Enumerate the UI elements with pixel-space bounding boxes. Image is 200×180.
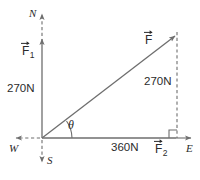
vector-arrow-icon — [21, 40, 30, 45]
vector-diagram-figure: N S W E F 1 270N F 270N 360N — [0, 0, 200, 180]
resultant-vector-label: F — [145, 34, 152, 46]
f2-symbol-wrap: F — [155, 143, 162, 155]
compass-label-north: N — [29, 8, 36, 19]
f1-vector-label: F 1 — [22, 45, 35, 60]
vector-arrow-icon — [144, 29, 153, 34]
f1-subscript: 1 — [30, 50, 35, 60]
f2-symbol: F — [155, 142, 162, 156]
f2-subscript: 2 — [163, 148, 168, 158]
f1-symbol-wrap: F — [22, 45, 29, 57]
f2-vector-label: F 2 — [155, 143, 168, 158]
f2-magnitude-label: 360N — [111, 142, 139, 154]
resultant-symbol: F — [145, 33, 152, 47]
f1-magnitude-label: 270N — [7, 83, 35, 95]
theta-angle-label: θ — [68, 119, 74, 131]
compass-label-west: W — [9, 143, 18, 154]
resultant-magnitude-label: 270N — [144, 76, 172, 88]
compass-label-south: S — [47, 155, 53, 166]
right-angle-marker — [169, 130, 177, 138]
resultant-symbol-wrap: F — [145, 34, 152, 46]
vector-arrow-icon — [154, 138, 163, 143]
compass-label-east: E — [186, 143, 193, 154]
f1-symbol: F — [22, 44, 29, 58]
